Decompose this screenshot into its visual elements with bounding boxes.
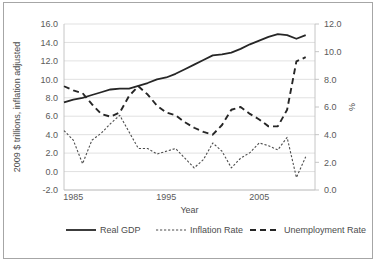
- y-tick-label: 14.0: [40, 38, 58, 48]
- x-tick-label: 1985: [63, 192, 83, 202]
- series-line-inflation-rate: [64, 115, 306, 177]
- legend-item-real-gdp[interactable]: Real GDP: [66, 225, 141, 235]
- y-tick-label: 6.0: [45, 111, 58, 121]
- legend-item-unemployment-rate[interactable]: Unemployment Rate: [250, 225, 366, 235]
- y-tick-label: 0.0: [45, 167, 58, 177]
- axis-lines: [64, 24, 315, 190]
- y-tick-label: 2.0: [45, 148, 58, 158]
- y-axis-tick-labels: -2.00.02.04.06.08.010.012.014.016.0: [40, 19, 58, 195]
- data-series-group: [64, 34, 306, 177]
- gridlines: [64, 24, 315, 190]
- legend-item-inflation-rate[interactable]: Inflation Rate: [156, 225, 243, 235]
- y2-tick-label: 6.0: [324, 102, 337, 112]
- y2-axis-title: %: [347, 103, 357, 111]
- y2-tick-label: 2.0: [324, 158, 337, 168]
- y-tick-label: 12.0: [40, 56, 58, 66]
- x-axis-tick-labels: 198519952005: [63, 192, 269, 202]
- y-tick-label: 4.0: [45, 130, 58, 140]
- y2-tick-label: 8.0: [324, 75, 337, 85]
- line-chart: -2.00.02.04.06.08.010.012.014.016.0 0.02…: [4, 3, 372, 258]
- y-tick-label: -2.0: [42, 185, 58, 195]
- y-tick-label: 8.0: [45, 93, 58, 103]
- y-tick-label: 10.0: [40, 75, 58, 85]
- legend-label: Inflation Rate: [190, 225, 243, 235]
- y2-tick-label: 4.0: [324, 130, 337, 140]
- x-tick-label: 2005: [249, 192, 269, 202]
- chart-frame: -2.00.02.04.06.08.010.012.014.016.0 0.02…: [3, 2, 373, 259]
- y-axis-title: 2009 $ trillions, inflation adjusted: [12, 42, 22, 173]
- y2-tick-label: 10.0: [324, 47, 342, 57]
- y-tick-label: 16.0: [40, 19, 58, 29]
- y2-tick-label: 12.0: [324, 19, 342, 29]
- y2-axis-tick-labels: 0.02.04.06.08.010.012.0: [315, 19, 342, 195]
- legend-label: Unemployment Rate: [284, 225, 366, 235]
- series-line-real-gdp: [64, 34, 306, 102]
- chart-plot-container: -2.00.02.04.06.08.010.012.014.016.0 0.02…: [4, 3, 372, 258]
- chart-legend: Real GDPInflation RateUnemployment Rate: [66, 225, 366, 235]
- legend-label: Real GDP: [100, 225, 141, 235]
- x-axis-title: Year: [180, 205, 198, 215]
- x-tick-label: 1995: [156, 192, 176, 202]
- y2-tick-label: 0.0: [324, 185, 337, 195]
